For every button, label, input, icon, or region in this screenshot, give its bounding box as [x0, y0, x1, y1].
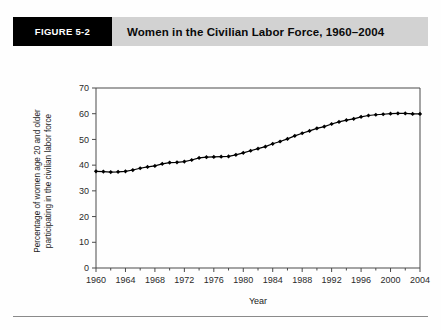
y-tick-label: 40	[79, 160, 89, 170]
data-point	[322, 124, 326, 128]
x-axis-tick-labels: 1960196419681972197619801984198819921996…	[86, 275, 430, 285]
y-tick-label: 0	[84, 263, 89, 273]
figure-page: FIGURE 5-2 Women in the Civilian Labor F…	[0, 0, 441, 330]
data-point	[175, 160, 179, 164]
y-tick-label: 10	[79, 237, 89, 247]
data-point	[204, 155, 208, 159]
y-tick-label: 20	[79, 212, 89, 222]
x-tick-label: 1984	[263, 275, 283, 285]
data-point	[300, 131, 304, 135]
y-axis-title-line-2: participating in the civilian labor forc…	[44, 113, 53, 248]
data-point	[271, 142, 275, 146]
data-point	[182, 159, 186, 163]
data-point	[307, 129, 311, 133]
data-point	[337, 120, 341, 124]
data-point	[256, 147, 260, 151]
data-point	[197, 156, 201, 160]
data-point	[418, 112, 422, 116]
data-point	[381, 112, 385, 116]
x-tick-label: 1976	[204, 275, 224, 285]
x-axis-tick-marks	[96, 268, 420, 272]
data-point	[278, 139, 282, 143]
data-point	[116, 170, 120, 174]
x-tick-label: 1980	[233, 275, 253, 285]
data-point	[263, 145, 267, 149]
figure-title-area: Women in the Civilian Labor Force, 1960–…	[112, 17, 428, 46]
data-point	[352, 117, 356, 121]
bottom-divider-rule	[13, 316, 428, 317]
data-point	[330, 122, 334, 126]
data-point	[359, 115, 363, 119]
data-point	[131, 168, 135, 172]
y-tick-label: 70	[79, 83, 89, 93]
y-tick-label: 30	[79, 186, 89, 196]
x-tick-label: 1968	[145, 275, 165, 285]
data-point	[396, 111, 400, 115]
data-point	[219, 155, 223, 159]
data-point	[145, 165, 149, 169]
data-point	[160, 162, 164, 166]
data-point	[411, 112, 415, 116]
data-point	[366, 113, 370, 117]
data-point	[138, 166, 142, 170]
x-tick-label: 1964	[115, 275, 135, 285]
line-chart: 010203040506070 196019641968197219761980…	[0, 55, 441, 310]
figure-number-label: FIGURE 5-2	[35, 26, 90, 37]
data-point	[374, 113, 378, 117]
data-point	[234, 153, 238, 157]
x-tick-label: 2000	[381, 275, 401, 285]
y-axis-tick-marks	[92, 88, 96, 268]
figure-header: FIGURE 5-2 Women in the Civilian Labor F…	[13, 17, 428, 46]
figure-number-box: FIGURE 5-2	[13, 17, 112, 46]
x-tick-label: 1972	[174, 275, 194, 285]
x-tick-label: 1992	[322, 275, 342, 285]
data-series-line	[96, 113, 420, 172]
x-tick-label: 2004	[410, 275, 430, 285]
data-point	[293, 134, 297, 138]
data-point	[94, 169, 98, 173]
data-point	[153, 164, 157, 168]
data-point	[403, 111, 407, 115]
x-axis-title: Year	[249, 296, 267, 306]
data-point	[123, 169, 127, 173]
x-tick-label: 1988	[292, 275, 312, 285]
y-axis-title-line-1: Percentage of women age 20 and older	[33, 109, 42, 253]
data-point	[285, 137, 289, 141]
data-point	[226, 154, 230, 158]
data-point	[249, 149, 253, 153]
data-point	[109, 170, 113, 174]
x-tick-label: 1960	[86, 275, 106, 285]
y-axis-tick-labels: 010203040506070	[79, 83, 89, 273]
data-point	[190, 158, 194, 162]
data-series-markers	[94, 111, 422, 174]
chart-area: 010203040506070 196019641968197219761980…	[0, 55, 441, 310]
figure-title-label: Women in the Civilian Labor Force, 1960–…	[127, 26, 384, 38]
y-tick-label: 60	[79, 109, 89, 119]
data-point	[315, 126, 319, 130]
x-tick-label: 1996	[351, 275, 371, 285]
data-point	[344, 118, 348, 122]
data-point	[168, 160, 172, 164]
data-point	[241, 151, 245, 155]
data-point	[101, 169, 105, 173]
data-point	[212, 155, 216, 159]
y-tick-label: 50	[79, 135, 89, 145]
data-point	[388, 112, 392, 116]
